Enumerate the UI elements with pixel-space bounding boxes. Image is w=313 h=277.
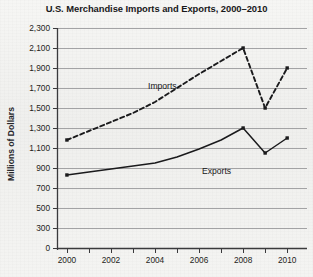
data-point-marker [263,106,266,109]
data-series-layer [65,46,289,176]
data-point-marker [65,138,68,141]
series-label-exports: Exports [202,166,231,176]
data-point-marker [285,66,288,69]
y-axis-ticks [53,29,57,249]
axis-lines [57,28,307,250]
data-point-marker [65,173,68,176]
data-point-marker [241,46,244,49]
data-point-marker [263,151,266,154]
data-point-marker [285,136,288,139]
line-chart: U.S. Merchandise Imports and Exports, 20… [0,0,313,277]
plot-area [0,0,313,277]
series-label-imports: Imports [148,81,177,91]
data-point-marker [241,126,244,129]
series-line-imports [67,48,287,140]
series-line-exports [67,128,287,175]
